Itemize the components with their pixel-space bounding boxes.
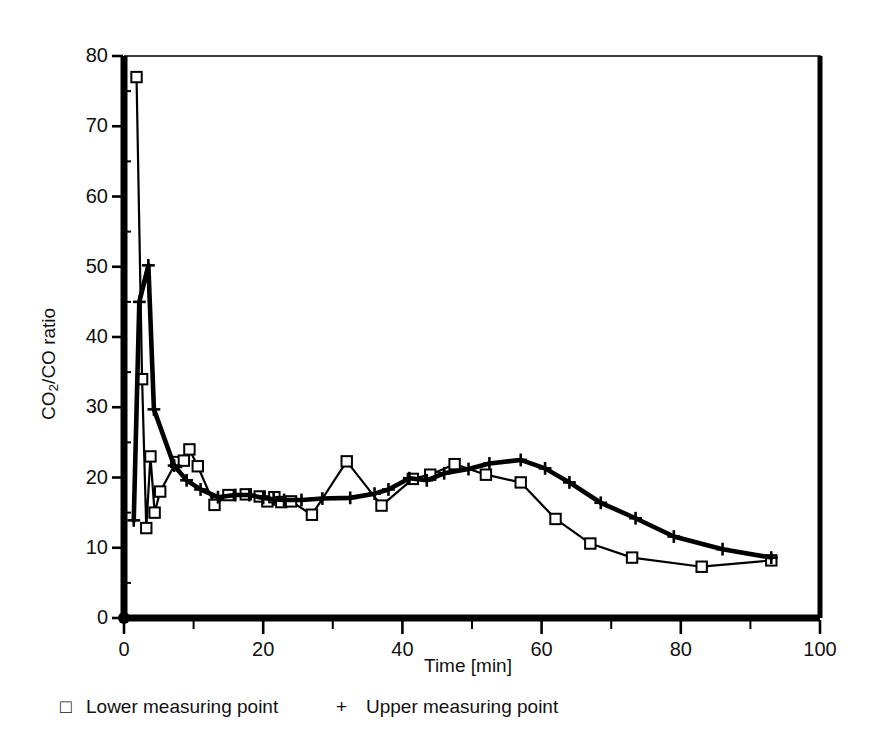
x-tick-label-100: 100 <box>790 638 850 661</box>
legend-label-upper-measuring-point: Upper measuring point <box>366 696 558 718</box>
x-tick-label-20: 20 <box>233 638 293 661</box>
legend-marker-plus-icon: + <box>336 696 347 718</box>
y-tick-label-0: 0 <box>62 606 108 629</box>
series-upper-measuring-point <box>127 259 777 564</box>
y-tick-label-20: 20 <box>62 466 108 489</box>
x-axis-title: Time [min] <box>424 655 512 677</box>
x-tick-label-0: 0 <box>94 638 154 661</box>
y-tick-label-30: 30 <box>62 395 108 418</box>
legend-label-lower-measuring-point: Lower measuring point <box>86 696 278 718</box>
y-tick-label-10: 10 <box>62 536 108 559</box>
x-tick-label-60: 60 <box>512 638 572 661</box>
y-tick-label-40: 40 <box>62 325 108 348</box>
chart-figure-root: 01020304050607080 020406080100 CO2/CO ra… <box>0 0 884 736</box>
plot-frame <box>118 56 820 624</box>
chart-canvas <box>0 0 884 736</box>
legend-marker-square-open-icon: □ <box>60 696 71 718</box>
y-tick-label-70: 70 <box>62 114 108 137</box>
y-tick-label-60: 60 <box>62 185 108 208</box>
y-axis-title: CO2/CO ratio <box>38 308 61 420</box>
y-tick-label-50: 50 <box>62 255 108 278</box>
data-series-group <box>127 72 777 572</box>
x-tick-label-80: 80 <box>651 638 711 661</box>
y-tick-label-80: 80 <box>62 44 108 67</box>
